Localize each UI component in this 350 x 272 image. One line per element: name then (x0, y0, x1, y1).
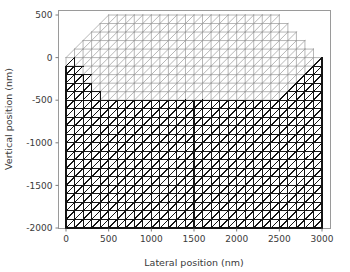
x-tick-label: 1500 (183, 234, 206, 244)
y-tick-label: -500 (32, 95, 53, 105)
y-tick-label: 0 (47, 53, 53, 63)
x-tick-label: 2000 (225, 234, 248, 244)
x-tick-label: 500 (100, 234, 117, 244)
x-axis-title: Lateral position (nm) (144, 257, 243, 268)
upper-island-region-triangles (66, 15, 322, 100)
x-tick-label: 1000 (140, 234, 163, 244)
mesh-plot: 0500100015002000250030005000-500-1000-15… (0, 0, 350, 272)
x-tick-label: 2500 (268, 234, 291, 244)
y-tick-label: 500 (35, 10, 52, 20)
y-axis-title: Vertical position (nm) (3, 68, 14, 170)
y-tick-label: -2000 (26, 223, 52, 233)
y-tick-label: -1000 (26, 138, 52, 148)
y-tick-label: -1500 (26, 181, 52, 191)
x-tick-label: 3000 (311, 234, 334, 244)
upper-island-mesh (66, 15, 322, 100)
figure-container: 0500100015002000250030005000-500-1000-15… (0, 0, 350, 272)
x-tick-label: 0 (63, 234, 69, 244)
